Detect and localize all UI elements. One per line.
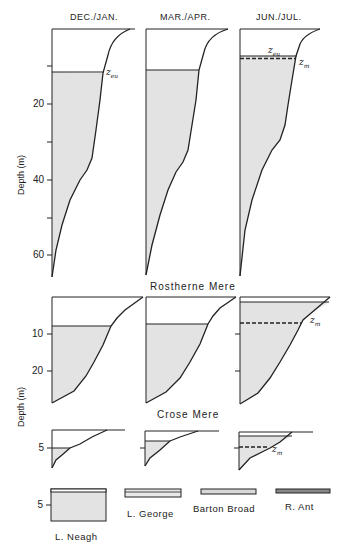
r-ant-label: R. Ant — [285, 501, 314, 512]
crose-decjan-panel — [47, 297, 143, 403]
crose-tick-10: 10 — [21, 328, 43, 339]
column-header-junjul: JUN./JUL. — [256, 12, 302, 22]
lakes-tick-5: 5 — [21, 499, 43, 510]
rostherne-tick-20: 20 — [22, 98, 44, 109]
barton-broad-bar — [201, 489, 256, 494]
crose-tick-20: 20 — [21, 365, 43, 376]
rostherne-marapr-panel — [146, 29, 228, 275]
crose-junjul-panel — [235, 297, 330, 404]
rostherne-tick-60: 60 — [22, 249, 44, 260]
crose-mere-title: Crose Mere — [157, 409, 219, 420]
stratification-diagram — [0, 0, 349, 553]
column-header-decjan: DEC./JAN. — [70, 12, 118, 22]
rostherne-decjan-zeu-label: zeu — [106, 67, 118, 79]
crose-junjul-zm-label: zm — [310, 315, 320, 327]
lake-neagh-label: L. Neagh — [55, 531, 98, 542]
shallow-decjan-panel — [47, 430, 125, 468]
crose-marapr-panel — [146, 297, 236, 403]
r-ant-bar — [276, 489, 330, 493]
rostherne-decjan-panel — [47, 29, 135, 277]
rostherne-axis-title: Depth (m) — [16, 155, 26, 195]
shallow-tick-5: 5 — [22, 442, 44, 453]
rostherne-mere-title: Rostherne Mere — [150, 281, 236, 292]
shallow-marapr-panel — [140, 431, 219, 466]
rostherne-junjul-zeu-label: zeu — [268, 45, 280, 57]
column-header-marapr: MAR./APR. — [160, 12, 211, 22]
lake-neagh-bar — [46, 489, 106, 521]
crose-axis-title: Depth (m) — [16, 387, 26, 427]
lake-george-bar — [125, 489, 181, 497]
shallow-junjul-zm-label: zm — [272, 444, 282, 456]
lake-george-label: L. George — [127, 508, 174, 519]
rostherne-junjul-zm-label: zm — [299, 57, 309, 69]
barton-broad-label: Barton Broad — [193, 503, 255, 514]
